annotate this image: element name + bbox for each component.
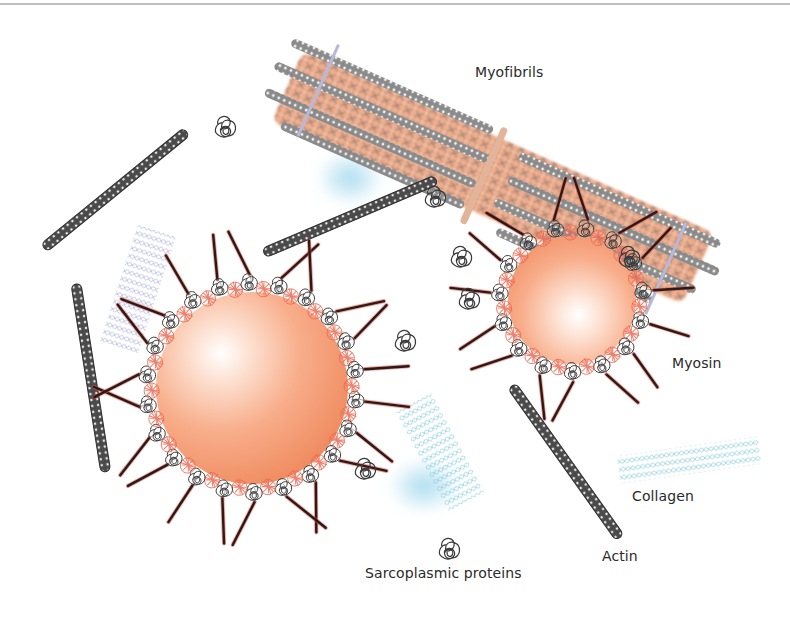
myosin-head-icon [149,424,165,441]
myosin-head-icon [185,292,201,309]
myosin-rod [94,387,140,407]
diagram-canvas [0,0,790,620]
myosin-rod [336,301,384,311]
actin-filament [508,383,624,540]
actin-filament [71,283,111,472]
sarcoplasmic-protein-icon [579,359,595,375]
myosin-head-icon [501,255,517,272]
myosin-head-icon [594,356,610,373]
myosin-rod [364,366,408,369]
label-myosin: Myosin [672,355,722,371]
myosin-head-icon [338,333,354,350]
myosin-head-icon [216,480,232,497]
collagen-patch [617,436,762,483]
sarcoplasmic-protein-icon [215,116,235,137]
sarcoplasmic-protein-icon [624,325,640,341]
sarcoplasmic-protein-icon [451,246,471,267]
myosin-rod [634,354,658,387]
myosin-head-icon [147,337,163,354]
sarcoplasmic-protein-icon [341,406,357,422]
myosin-rod [94,374,139,397]
myosin-head-icon [271,277,287,294]
myosin-rod [282,245,319,278]
myosin-rod [606,374,638,402]
myosin-head-icon [211,279,227,296]
myosin-rod [470,233,501,260]
myosin-head-icon [275,479,291,496]
sarcoplasmic-protein-icon [395,330,415,351]
myosin-rod [120,438,149,475]
label-collagen: Collagen [632,488,694,504]
myosin-rod [128,465,168,486]
myosin-head-icon [241,274,257,291]
myosin-rod [471,356,511,369]
myosin-head-icon [564,363,580,380]
myosin-rod [316,482,317,532]
myosin-head-icon [246,484,262,501]
myosin-head-icon [618,338,634,355]
fat-globules [156,236,636,484]
myosin-head-icon [347,361,363,378]
myosin-rod [228,232,249,274]
myosin-rod [460,326,494,349]
myosin-head-icon [162,312,178,329]
actin-filament [41,128,190,252]
label-actin: Actin [602,548,638,564]
label-myofibrils: Myofibrils [475,64,543,80]
myosin-rod [222,498,224,543]
myosin-rod [233,502,255,545]
myosin-rod [553,382,574,420]
myosin-head-icon [139,366,155,383]
myosin-head-icon [189,468,205,485]
myosin-head-icon [492,284,508,301]
myosin-head-icon [302,466,318,483]
myosin-rod [166,255,188,293]
myosin-head-icon [140,396,156,413]
myosin-rod [287,497,326,528]
myosin-rod [650,324,688,336]
myosin-rod [355,305,387,338]
myosin-rod [168,485,192,522]
sarcoplasmic-protein-icon [439,538,459,559]
myosin-rod [357,433,392,461]
label-sarcoplasmic-proteins: Sarcoplasmic proteins [365,565,522,581]
myosin-head-icon [340,420,356,437]
